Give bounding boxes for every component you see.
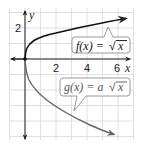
g-curve — [25, 59, 114, 135]
f-callout: f(x) = √ x — [72, 27, 130, 53]
svg-text:f(x) =: f(x) = — [76, 39, 104, 53]
g-label-prefix: g(x) = a — [64, 80, 103, 94]
y-tick-2: 2 — [15, 22, 21, 34]
grid — [10, 8, 134, 140]
svg-text:√: √ — [109, 39, 116, 53]
f-label-prefix: f(x) = — [76, 39, 104, 53]
f-label-radicand: x — [117, 39, 124, 53]
function-graph: 2 4 6 x 2 y f(x) = √ x g(x) = a √ x — [0, 0, 141, 146]
g-label-radicand: x — [117, 80, 124, 94]
x-tick-4: 4 — [84, 62, 90, 74]
x-axis-label: x — [124, 61, 131, 75]
g-callout: g(x) = a √ x — [60, 78, 130, 111]
x-tick-2: 2 — [53, 62, 59, 74]
x-tick-6: 6 — [114, 62, 120, 74]
svg-text:g(x) = a: g(x) = a — [64, 80, 103, 94]
origin-point — [23, 57, 27, 61]
svg-text:√: √ — [109, 80, 116, 94]
y-axis-label: y — [28, 8, 35, 22]
